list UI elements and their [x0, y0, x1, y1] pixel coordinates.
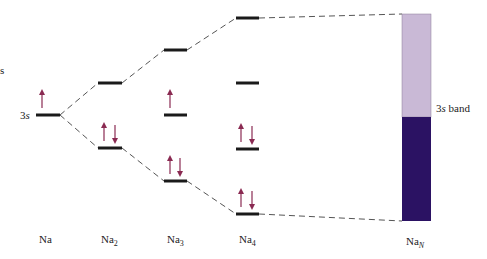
- band-empty-region: [402, 14, 431, 117]
- column-label-na2: Na2: [101, 233, 118, 248]
- levels-na3: [164, 50, 187, 181]
- column-label-naN: NaN: [406, 235, 425, 250]
- levels-na2: [98, 83, 122, 148]
- levels-na4: [236, 18, 259, 214]
- connector-lines: [60, 14, 402, 221]
- electron-arrows: [42, 92, 252, 207]
- column-label-na3: Na3: [167, 233, 184, 248]
- side-fragment-text: s: [0, 64, 4, 76]
- band-label: 3s band: [436, 102, 470, 114]
- column-label-na4: Na4: [239, 233, 256, 248]
- column-label-na: Na: [39, 233, 52, 245]
- band-filled-region: [402, 117, 431, 221]
- orbital-label-3s: 3s: [20, 109, 30, 121]
- energy-level-diagram: s 3s: [0, 0, 487, 259]
